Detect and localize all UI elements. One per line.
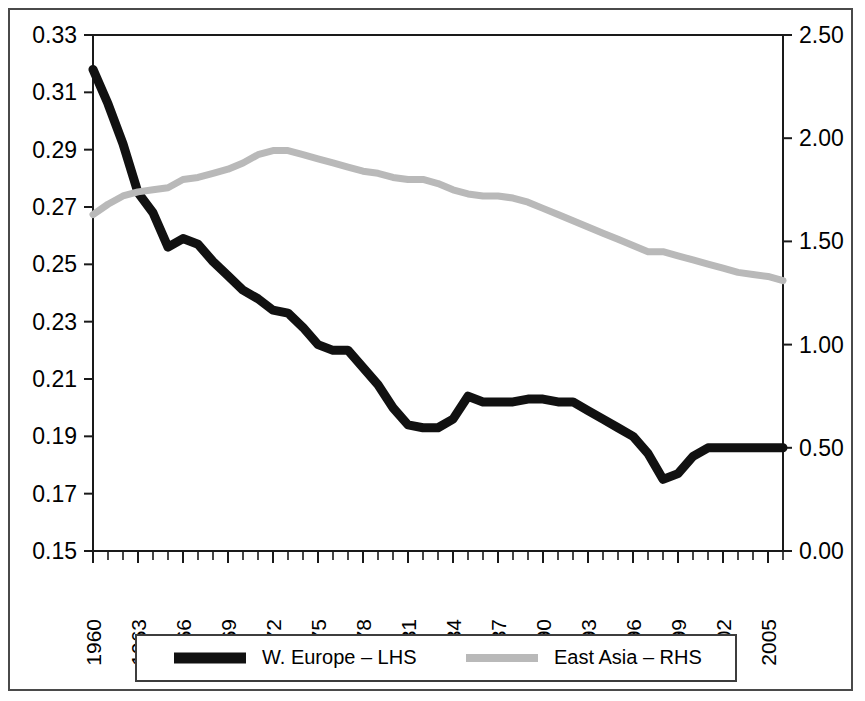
series-line-east-asia-rhs: [93, 151, 783, 281]
left-tick-label: 0.33: [32, 22, 77, 48]
x-tick-label: 2005: [757, 619, 780, 666]
x-tick-label: 1960: [82, 619, 105, 666]
left-tick-label: 0.27: [32, 194, 77, 220]
left-tick-label: 0.19: [32, 423, 77, 449]
left-tick-label: 0.21: [32, 366, 77, 392]
chart-legend: W. Europe – LHSEast Asia – RHS: [136, 635, 736, 681]
legend-label-w-europe: W. Europe – LHS: [262, 646, 417, 668]
series-line-w-europe-lhs: [93, 69, 783, 479]
right-tick-label: 2.00: [799, 125, 844, 151]
left-tick-label: 0.31: [32, 79, 77, 105]
chart-page: 0.150.170.190.210.230.250.270.290.310.33…: [0, 0, 865, 701]
right-tick-label: 2.50: [799, 22, 844, 48]
right-axis-ticks: 0.000.501.001.502.002.50: [783, 22, 844, 564]
left-tick-label: 0.25: [32, 251, 77, 277]
left-tick-label: 0.29: [32, 137, 77, 163]
right-tick-label: 0.00: [799, 538, 844, 564]
left-tick-label: 0.23: [32, 309, 77, 335]
left-axis-ticks: 0.150.170.190.210.230.250.270.290.310.33: [32, 22, 93, 564]
right-tick-label: 1.00: [799, 332, 844, 358]
series-group: [93, 69, 783, 479]
right-tick-label: 0.50: [799, 435, 844, 461]
line-chart-figure: 0.150.170.190.210.230.250.270.290.310.33…: [0, 0, 865, 701]
left-tick-label: 0.15: [32, 538, 77, 564]
right-tick-label: 1.50: [799, 228, 844, 254]
legend-label-east-asia: East Asia – RHS: [554, 646, 702, 668]
left-tick-label: 0.17: [32, 481, 77, 507]
